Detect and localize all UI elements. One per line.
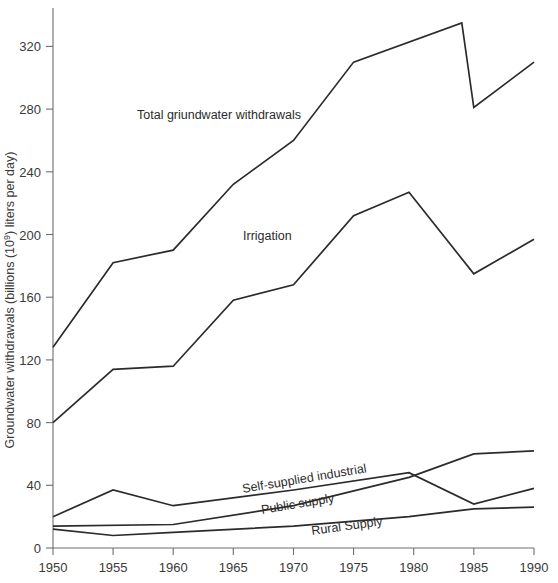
- y-tick-label-40: 40: [27, 478, 41, 493]
- series-label-public-supply: Public supply: [260, 491, 336, 517]
- y-tick-label-120: 120: [19, 353, 41, 368]
- y-axis-ticks: [46, 46, 53, 548]
- line-chart-plot: 0 40 80 120 160 200 240 280 320 1950 195…: [0, 0, 558, 583]
- x-tick-label-1980: 1980: [399, 560, 428, 575]
- x-tick-label-1955: 1955: [99, 560, 128, 575]
- chart-figure: 0 40 80 120 160 200 240 280 320 1950 195…: [0, 0, 558, 583]
- x-axis-ticks: [53, 548, 534, 555]
- series-label-self-supplied-industrial: Self-supplied industrial: [241, 461, 367, 496]
- x-tick-label-1975: 1975: [339, 560, 368, 575]
- x-tick-label-1970: 1970: [279, 560, 308, 575]
- y-tick-label-200: 200: [19, 228, 41, 243]
- series-line-public-supply: [53, 451, 534, 526]
- y-axis-title: Groundwater withdrawals (billions (109) …: [2, 152, 17, 449]
- series-label-irrigation: Irrigation: [243, 229, 292, 243]
- y-tick-label-160: 160: [19, 290, 41, 305]
- series-line-total: [53, 23, 534, 347]
- x-tick-label-1990: 1990: [520, 560, 549, 575]
- x-tick-label-1960: 1960: [159, 560, 188, 575]
- y-tick-label-80: 80: [27, 416, 41, 431]
- series-label-total: Total griundwater withdrawals: [137, 108, 301, 122]
- y-tick-label-240: 240: [19, 165, 41, 180]
- series-label-rural-supply: Rural Supply: [310, 514, 384, 538]
- y-tick-label-280: 280: [19, 102, 41, 117]
- y-tick-label-320: 320: [19, 39, 41, 54]
- x-tick-label-1965: 1965: [219, 560, 248, 575]
- x-tick-label-1985: 1985: [459, 560, 488, 575]
- y-tick-label-0: 0: [34, 541, 41, 556]
- series-line-irrigation: [53, 192, 534, 422]
- x-tick-label-1950: 1950: [39, 560, 68, 575]
